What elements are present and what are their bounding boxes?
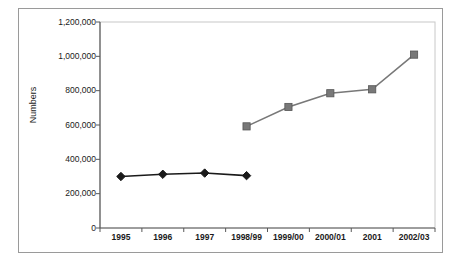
- y-axis-tick-label: 400,000: [24, 154, 96, 164]
- chart-figure-frame: [18, 8, 443, 253]
- y-axis-tick-label: 200,000: [24, 188, 96, 198]
- y-axis-tick-label: 1,000,000: [24, 51, 96, 61]
- y-axis-tick-label: 1,200,000: [24, 17, 96, 27]
- y-axis-tick-label: 800,000: [24, 85, 96, 95]
- x-axis-tick-label: 2002/03: [388, 232, 440, 242]
- y-axis-tick-label: 0: [24, 223, 96, 233]
- y-axis-title: Numbers: [28, 70, 38, 140]
- y-axis-tick-label: 600,000: [24, 120, 96, 130]
